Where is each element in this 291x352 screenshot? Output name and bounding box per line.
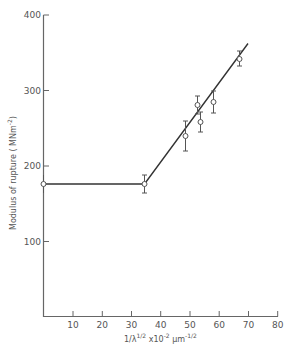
x-axis-label: 1/λ1/2 x10-2 μm-1/2 — [124, 332, 197, 344]
data-points — [41, 51, 242, 193]
y-ticks — [44, 15, 50, 242]
x-ticks — [73, 311, 278, 317]
xtick-10: 10 — [67, 320, 79, 330]
xtick-70: 70 — [243, 320, 255, 330]
xtick-20: 20 — [97, 320, 109, 330]
xtick-40: 40 — [155, 320, 167, 330]
ytick-200: 200 — [24, 161, 41, 171]
ytick-300: 300 — [24, 86, 41, 96]
xtick-50: 50 — [184, 320, 196, 330]
ytick-100: 100 — [24, 237, 41, 247]
chart: 400 300 200 100 10 20 30 40 50 60 70 80 … — [0, 0, 291, 352]
ytick-400: 400 — [24, 10, 41, 20]
xtick-80: 80 — [272, 320, 284, 330]
fit-line — [44, 44, 249, 185]
xtick-30: 30 — [126, 320, 138, 330]
xtick-60: 60 — [213, 320, 225, 330]
y-axis-label: Modulus of rupture ( MNm-2) — [6, 116, 18, 230]
